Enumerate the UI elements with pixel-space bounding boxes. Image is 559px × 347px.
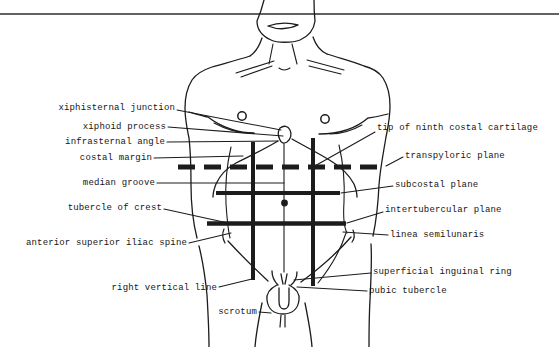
penis-outline bbox=[279, 288, 289, 309]
label-xiphisternal-junction: xiphisternal junction bbox=[58, 103, 175, 113]
head-outline bbox=[257, 0, 315, 42]
torso-right-outline bbox=[327, 54, 390, 236]
label-tip-of-ninth-costal-cartilage: tip of ninth costal cartilage bbox=[377, 123, 538, 133]
neck-left-line bbox=[250, 38, 262, 56]
linea-semilunaris-right bbox=[339, 145, 347, 233]
label-right-vertical-line: right vertical line bbox=[112, 283, 217, 293]
label-pubic-tubercle: pubic tubercle bbox=[369, 286, 447, 296]
asis-mark-left bbox=[223, 229, 225, 243]
clavicle-lines-right bbox=[307, 60, 344, 74]
label-tubercle-of-crest: tubercle of crest bbox=[68, 203, 162, 213]
asis-mark-right bbox=[352, 230, 354, 242]
label-intertubercular-plane: intertubercular plane bbox=[385, 205, 502, 215]
label-xiphoid-process: xiphoid process bbox=[83, 122, 166, 132]
label-transpyloric-plane: transpyloric plane bbox=[405, 151, 505, 161]
scrotum-outline bbox=[267, 285, 299, 314]
label-scrotum: scrotum bbox=[218, 307, 257, 317]
label-infrasternal-angle: infrasternal angle bbox=[65, 137, 165, 147]
label-superficial-inguinal-ring: superficial inguinal ring bbox=[373, 267, 512, 277]
clavicle-lines-left bbox=[236, 61, 274, 77]
nipple-right bbox=[321, 115, 329, 123]
label-costal-margin: costal margin bbox=[80, 153, 152, 163]
left-thigh-outline bbox=[199, 246, 209, 347]
inguinal-line-left bbox=[228, 241, 268, 281]
label-subcostal-plane: subcostal plane bbox=[395, 180, 478, 190]
neck-right-line bbox=[313, 37, 327, 54]
umbilicus bbox=[281, 200, 288, 207]
scrotum-raphe-lines bbox=[280, 315, 285, 327]
label-anterior-superior-iliac-spine: anterior superior iliac spine bbox=[26, 238, 187, 248]
mouth bbox=[268, 23, 298, 29]
torso-left-outline bbox=[185, 56, 250, 238]
label-median-groove: median groove bbox=[83, 178, 155, 188]
xiphoid-process-shape bbox=[279, 126, 292, 143]
right-inner-thigh-line bbox=[305, 303, 312, 347]
label-linea-semilunaris: linea semilunaris bbox=[390, 230, 484, 240]
diagram-canvas: xiphisternal junction xiphoid process in… bbox=[0, 0, 559, 347]
nipple-left bbox=[238, 112, 246, 120]
anatomy-figure bbox=[0, 0, 559, 347]
suprasternal-notch bbox=[279, 68, 290, 70]
superficial-inguinal-ring-marks bbox=[272, 271, 297, 285]
